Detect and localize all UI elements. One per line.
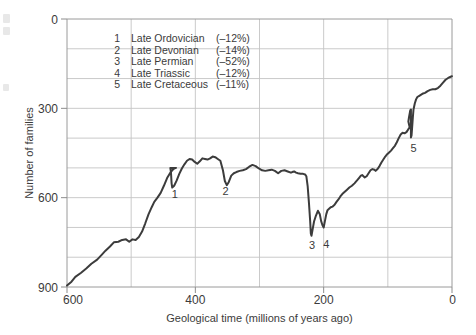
legend-number-1: 1	[114, 32, 120, 44]
legend-number-4: 4	[114, 67, 120, 79]
marker-label-1: 1	[172, 188, 178, 200]
legend-number-5: 5	[114, 78, 120, 90]
y-tick-label-600: 300	[38, 102, 58, 116]
marker-label-5: 5	[410, 142, 416, 154]
y-tick-label-0: 900	[38, 281, 58, 295]
legend-number-3: 3	[114, 55, 120, 67]
x-tick-label-400: 400	[185, 293, 205, 307]
y-axis-title: Number of families	[23, 107, 35, 199]
scan-artifact-bottom	[3, 84, 9, 91]
legend-name-5: Late Cretaceous	[131, 78, 208, 90]
scan-artifact-top	[3, 14, 10, 23]
legend-magnitude-3: (–52%)	[216, 55, 250, 67]
legend-name-2: Late Devonian	[131, 44, 199, 56]
legend-magnitude-2: (–14%)	[216, 44, 250, 56]
x-tick-label-200: 200	[314, 293, 334, 307]
marker-label-3: 3	[309, 239, 315, 251]
legend-magnitude-4: (–12%)	[216, 67, 250, 79]
x-axis-title: Geological time (millions of years ago)	[166, 312, 352, 324]
marker-label-4: 4	[323, 238, 329, 250]
marker-label-2: 2	[222, 185, 228, 197]
y-tick-label-900: 0	[51, 13, 58, 27]
x-tick-label-600: 600	[63, 293, 83, 307]
legend-magnitude-5: (–11%)	[216, 78, 249, 90]
legend-magnitude-1: (–12%)	[216, 32, 250, 44]
legend-name-1: Late Ordovician	[131, 32, 205, 44]
legend: 1Late Ordovician(–12%)2Late Devonian(–14…	[114, 32, 250, 90]
legend-name-3: Late Permian	[131, 55, 194, 67]
legend-number-2: 2	[114, 44, 120, 56]
y-tick-label-300: 600	[38, 191, 58, 205]
legend-name-4: Late Triassic	[131, 67, 190, 79]
chart-svg: 9006003000 6004002000 12345 1Late Ordovi…	[0, 0, 476, 335]
scan-artifact-mid	[3, 27, 10, 35]
x-tick-label-0: 0	[449, 293, 456, 307]
chart-figure: 9006003000 6004002000 12345 1Late Ordovi…	[0, 0, 476, 335]
